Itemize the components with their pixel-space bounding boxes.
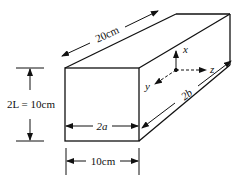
bottom-right-edge [139, 65, 230, 141]
length-label: 20cm [93, 23, 121, 44]
box-outline [65, 14, 230, 141]
top-left-edge [65, 14, 176, 68]
z-axis-label: z [209, 63, 215, 75]
bar-diagram: 20cm 2L = 10cm 2a 10cm 2b x z y [0, 0, 247, 183]
depth-label: 2b [178, 86, 194, 103]
top-right-edge [139, 14, 230, 68]
x-axis-label: x [182, 43, 188, 55]
coordinate-axes [155, 51, 206, 84]
inner-width-label: 2a [97, 120, 109, 132]
y-axis-label: y [144, 80, 150, 92]
height-label: 2L = 10cm [7, 98, 55, 110]
y-axis-arrow [155, 70, 176, 84]
width-label: 10cm [91, 155, 116, 167]
diagram-svg: 20cm 2L = 10cm 2a 10cm 2b x z y [0, 0, 247, 183]
